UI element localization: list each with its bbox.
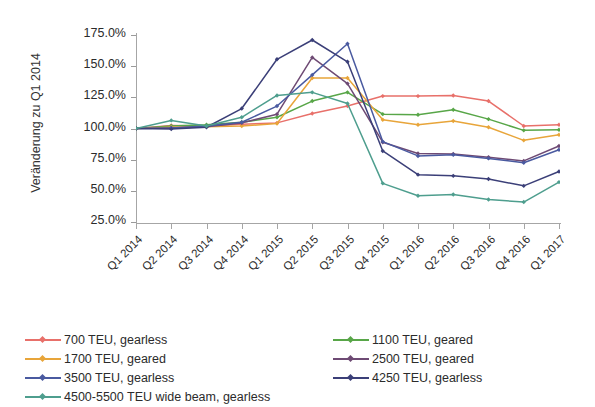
series-line: [136, 92, 559, 202]
series-marker: [522, 138, 526, 142]
series-marker: [451, 192, 455, 196]
legend-item[interactable]: 3500 TEU, gearless: [25, 371, 174, 385]
series-marker: [451, 93, 455, 97]
series-marker: [557, 128, 560, 132]
x-tick-mark: [524, 224, 525, 229]
series-lines: [136, 35, 560, 222]
x-tick-mark: [348, 224, 349, 229]
series-marker: [451, 119, 455, 123]
chart-page: Veränderung zu Q1 2014 175.0%150.0%125.0…: [0, 0, 595, 407]
series-line: [136, 95, 559, 128]
series-line: [136, 57, 559, 160]
series-marker: [416, 123, 420, 127]
series-marker: [557, 169, 560, 173]
x-tick-label: Q2 2016: [421, 233, 462, 274]
x-tick-mark: [312, 224, 313, 229]
series-marker: [310, 111, 314, 115]
legend-color-swatch: [333, 372, 369, 384]
legend-label: 2500 TEU, geared: [369, 352, 474, 366]
x-tick-label: Q2 2014: [139, 233, 180, 274]
x-tick-mark: [171, 224, 172, 229]
plot-area: [136, 35, 560, 222]
series-marker: [416, 113, 420, 117]
x-tick-mark: [207, 224, 208, 229]
series-marker: [136, 126, 138, 130]
series-marker: [522, 184, 526, 188]
y-tick-label: 175.0%: [60, 26, 126, 40]
legend-color-swatch: [25, 391, 61, 403]
legend-label: 1700 TEU, geared: [61, 352, 166, 366]
series-marker: [557, 123, 560, 127]
legend-color-swatch: [333, 353, 369, 365]
legend-item[interactable]: 700 TEU, gearless: [25, 333, 167, 347]
series-marker: [557, 147, 560, 151]
legend-label: 1100 TEU, geared: [369, 333, 473, 347]
y-tick-mark: [131, 222, 136, 223]
series-marker: [416, 194, 420, 198]
series-marker: [381, 94, 385, 98]
series-marker: [310, 90, 314, 94]
legend-item[interactable]: 2500 TEU, geared: [333, 352, 474, 366]
y-tick-label: 75.0%: [60, 151, 126, 165]
x-tick-label: Q1 2014: [103, 233, 144, 274]
series-marker: [451, 152, 455, 156]
x-tick-label: Q4 2015: [350, 233, 391, 274]
series-marker: [522, 128, 526, 132]
x-tick-label: Q4 2014: [209, 233, 250, 274]
series-marker: [310, 99, 314, 103]
x-tick-label: Q4 2016: [491, 233, 532, 274]
x-tick-label: Q1 2015: [244, 233, 285, 274]
x-tick-mark: [242, 224, 243, 229]
legend-color-swatch: [333, 334, 369, 346]
x-tick-mark: [277, 224, 278, 229]
x-tick-label: Q1 2017: [526, 233, 567, 274]
series-marker: [486, 125, 490, 129]
y-axis-title: Veränderung zu Q1 2014: [29, 16, 43, 231]
series-marker: [486, 197, 490, 201]
series-marker: [451, 108, 455, 112]
y-tick-label: 50.0%: [60, 182, 126, 196]
x-tick-label: Q2 2015: [280, 233, 321, 274]
legend-color-swatch: [25, 334, 61, 346]
series-marker: [451, 174, 455, 178]
y-tick-label: 100.0%: [60, 120, 126, 134]
series-marker: [416, 94, 420, 98]
series-marker: [557, 133, 560, 137]
legend-item[interactable]: 4500-5500 TEU wide beam, gearless: [25, 390, 270, 404]
series-marker: [169, 118, 173, 122]
x-tick-mark: [453, 224, 454, 229]
x-axis-line: [136, 223, 561, 224]
x-tick-label: Q3 2016: [456, 233, 497, 274]
series-marker: [381, 181, 385, 185]
series-marker: [416, 154, 420, 158]
y-tick-label: 25.0%: [60, 213, 126, 227]
series-marker: [486, 117, 490, 121]
x-tick-label: Q3 2015: [315, 233, 356, 274]
legend-item[interactable]: 1100 TEU, geared: [333, 333, 473, 347]
legend-label: 4500-5500 TEU wide beam, gearless: [61, 390, 270, 404]
legend-label: 700 TEU, gearless: [61, 333, 167, 347]
x-tick-mark: [489, 224, 490, 229]
legend-label: 3500 TEU, gearless: [61, 371, 174, 385]
y-tick-label: 125.0%: [60, 88, 126, 102]
x-tick-mark: [418, 224, 419, 229]
series-marker: [486, 177, 490, 181]
x-tick-mark: [383, 224, 384, 229]
x-tick-label: Q1 2016: [385, 233, 426, 274]
legend-color-swatch: [25, 353, 61, 365]
x-tick-mark: [559, 224, 560, 229]
series-line: [136, 78, 559, 140]
legend-color-swatch: [25, 372, 61, 384]
y-tick-label: 150.0%: [60, 57, 126, 71]
legend-item[interactable]: 1700 TEU, geared: [25, 352, 166, 366]
x-tick-mark: [136, 224, 137, 229]
chart-legend: 700 TEU, gearless1700 TEU, geared3500 TE…: [0, 333, 595, 407]
legend-item[interactable]: 4250 TEU, gearless: [333, 371, 482, 385]
x-tick-label: Q3 2014: [174, 233, 215, 274]
legend-label: 4250 TEU, gearless: [369, 371, 482, 385]
